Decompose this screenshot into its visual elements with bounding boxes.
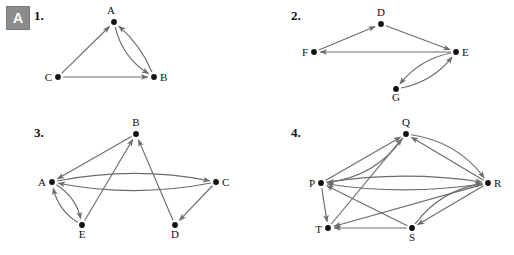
section-badge-label: A [13, 10, 23, 26]
directed-graph-3: BACED [30, 120, 235, 245]
edge-E-to-B [85, 140, 133, 221]
graph-node-label-S: S [409, 231, 415, 243]
edge-S-to-P [327, 186, 408, 226]
edge-A-to-B [115, 27, 148, 74]
graph-node-label-G: G [392, 91, 400, 103]
edge-D-to-E [386, 26, 450, 50]
graph-node-label-R: R [494, 177, 502, 189]
graph-node-C [213, 179, 219, 185]
graph-node-B [151, 74, 157, 80]
graph-node-Q [403, 131, 409, 137]
graph-node-label-C: C [222, 176, 229, 188]
graph-node-label-P: P [309, 177, 315, 189]
graph-node-label-B: B [132, 116, 139, 128]
graph-node-label-T: T [315, 223, 322, 235]
graph-node-label-D: D [171, 228, 179, 240]
edge-C-to-A [58, 183, 211, 191]
edge-P-to-Q [326, 137, 401, 180]
directed-graph-2: DEFG [293, 4, 483, 104]
edge-C-to-D [179, 186, 212, 221]
graph-node-F [311, 49, 317, 55]
edge-R-to-T [334, 184, 483, 226]
graph-node-label-C: C [45, 71, 52, 83]
graph-node-label-Q: Q [402, 116, 410, 128]
graph-node-E [453, 49, 459, 55]
edge-R-to-P [327, 184, 483, 190]
worksheet-canvas: A 1.ABC2.DEFG3.BACED4.QPRTS [0, 0, 514, 255]
directed-graph-4: QPRTS [288, 120, 503, 248]
edge-E-to-A [53, 188, 77, 222]
edge-R-to-S [418, 186, 484, 225]
graph-node-label-D: D [377, 6, 385, 18]
graph-node-R [485, 180, 491, 186]
graph-node-C [55, 74, 61, 80]
graph-node-label-B: B [160, 71, 167, 83]
graph-node-label-E: E [462, 46, 469, 58]
directed-graph-1: ABC [36, 4, 216, 100]
graph-node-T [325, 225, 331, 231]
edge-A-to-C [57, 173, 210, 181]
graph-node-A [49, 179, 55, 185]
graph-node-label-A: A [107, 4, 115, 16]
edge-D-to-B [139, 140, 173, 220]
edge-P-to-T [322, 188, 327, 222]
edge-C-to-A [62, 26, 110, 73]
graph-node-A [111, 19, 117, 25]
edge-R-to-Q [411, 137, 483, 180]
graph-node-P [318, 180, 324, 186]
edge-T-to-Q [331, 139, 402, 224]
edge-F-to-D [319, 26, 375, 50]
graph-node-D [378, 21, 384, 27]
section-badge-a: A [6, 6, 30, 30]
graph-node-label-A: A [38, 176, 46, 188]
edge-Q-to-R [411, 135, 484, 178]
edge-B-to-A [58, 137, 132, 179]
graph-node-label-F: F [302, 46, 308, 58]
edge-A-to-E [56, 185, 80, 219]
graph-node-B [133, 131, 139, 137]
graph-node-label-E: E [79, 228, 86, 240]
edge-P-to-R [326, 176, 482, 182]
